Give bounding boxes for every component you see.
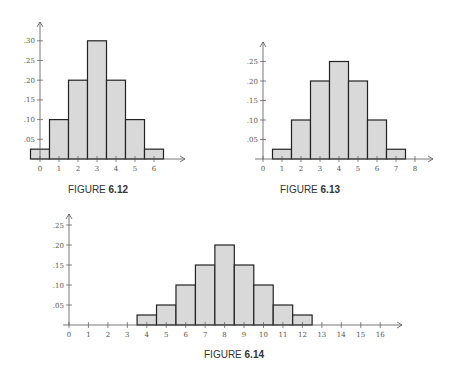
x-tick-label: 5 — [164, 331, 168, 339]
y-tick-label: .15 — [53, 262, 64, 270]
x-tick-label: 12 — [298, 331, 307, 339]
x-tick-label: 3 — [318, 165, 322, 173]
x-tick-label: 6 — [183, 331, 188, 339]
histogram-bar — [195, 265, 214, 325]
histogram-bar — [215, 245, 234, 325]
y-tick-label: .25 — [24, 57, 35, 65]
histogram-bar — [176, 285, 195, 325]
histogram-bar — [254, 285, 273, 325]
x-tick-label: 14 — [337, 331, 346, 339]
y-tick-label: .05 — [53, 302, 64, 310]
x-tick-label: 6 — [152, 165, 157, 173]
x-tick-label: 0 — [67, 331, 71, 339]
y-tick-label: .10 — [24, 116, 35, 124]
x-tick-label: 2 — [106, 331, 110, 339]
x-tick-label: 4 — [114, 165, 119, 173]
x-tick-label: 1 — [86, 331, 90, 339]
x-tick-label: 7 — [203, 331, 207, 339]
y-tick-label: .15 — [24, 96, 35, 104]
x-tick-label: 8 — [222, 331, 226, 339]
histogram-bar — [107, 80, 126, 159]
caption-prefix: FIGURE — [68, 184, 106, 195]
histogram-bar — [292, 120, 311, 159]
y-tick-label: .10 — [53, 282, 64, 290]
histogram-bar — [330, 62, 349, 160]
y-tick-label: .10 — [247, 117, 258, 125]
histogram-bar — [88, 41, 107, 159]
caption-prefix: FIGURE — [204, 349, 242, 360]
x-tick-label: 4 — [337, 165, 342, 173]
y-tick-label: .05 — [24, 136, 35, 144]
x-tick-label: 1 — [57, 165, 61, 173]
histogram-bar — [50, 120, 69, 159]
histogram-bar — [69, 80, 88, 159]
figure-caption-6-13: FIGURE 6.13 — [280, 184, 340, 195]
x-tick-label: 13 — [317, 331, 326, 339]
x-tick-label: 16 — [376, 331, 385, 339]
y-tick-label: .20 — [24, 77, 35, 85]
x-tick-label: 15 — [356, 331, 365, 339]
x-tick-label: 2 — [76, 165, 80, 173]
caption-number: 6.14 — [245, 349, 264, 360]
y-tick-label: .20 — [247, 78, 258, 86]
x-tick-label: 9 — [242, 331, 246, 339]
x-tick-label: 0 — [38, 165, 42, 173]
histogram-bar — [126, 120, 145, 159]
x-tick-label: 5 — [356, 165, 360, 173]
x-tick-label: 11 — [278, 331, 287, 339]
figure-caption-6-14: FIGURE 6.14 — [204, 349, 264, 360]
x-tick-label: 2 — [299, 165, 303, 173]
x-tick-label: 0 — [261, 165, 265, 173]
y-tick-label: .20 — [53, 242, 64, 250]
x-tick-label: 3 — [95, 165, 99, 173]
x-tick-label: 4 — [145, 331, 150, 339]
histogram-6-14: 012345678910111213141516.05.10.15.20.25 — [53, 214, 402, 339]
figure-caption-6-12: FIGURE 6.12 — [68, 184, 128, 195]
x-tick-label: 10 — [259, 331, 268, 339]
caption-number: 6.13 — [321, 184, 340, 195]
histogram-bar — [368, 120, 387, 159]
x-tick-label: 7 — [394, 165, 398, 173]
x-tick-label: 8 — [413, 165, 417, 173]
x-tick-label: 5 — [133, 165, 137, 173]
x-tick-label: 1 — [280, 165, 284, 173]
x-tick-label: 3 — [125, 331, 129, 339]
y-tick-label: .25 — [53, 222, 64, 230]
y-tick-label: .15 — [247, 97, 258, 105]
y-tick-label: .30 — [24, 37, 35, 45]
histogram-bar — [234, 265, 253, 325]
y-tick-label: .05 — [247, 136, 258, 144]
caption-number: 6.12 — [109, 184, 128, 195]
histogram-bar — [311, 81, 330, 159]
y-tick-label: .25 — [247, 58, 258, 66]
histogram-bar — [349, 81, 368, 159]
histogram-6-12: 0123456.05.10.15.20.25.30 — [24, 22, 185, 173]
caption-prefix: FIGURE — [280, 184, 318, 195]
x-tick-label: 6 — [375, 165, 380, 173]
histogram-6-13: 012345678.05.10.15.20.25 — [247, 42, 433, 173]
